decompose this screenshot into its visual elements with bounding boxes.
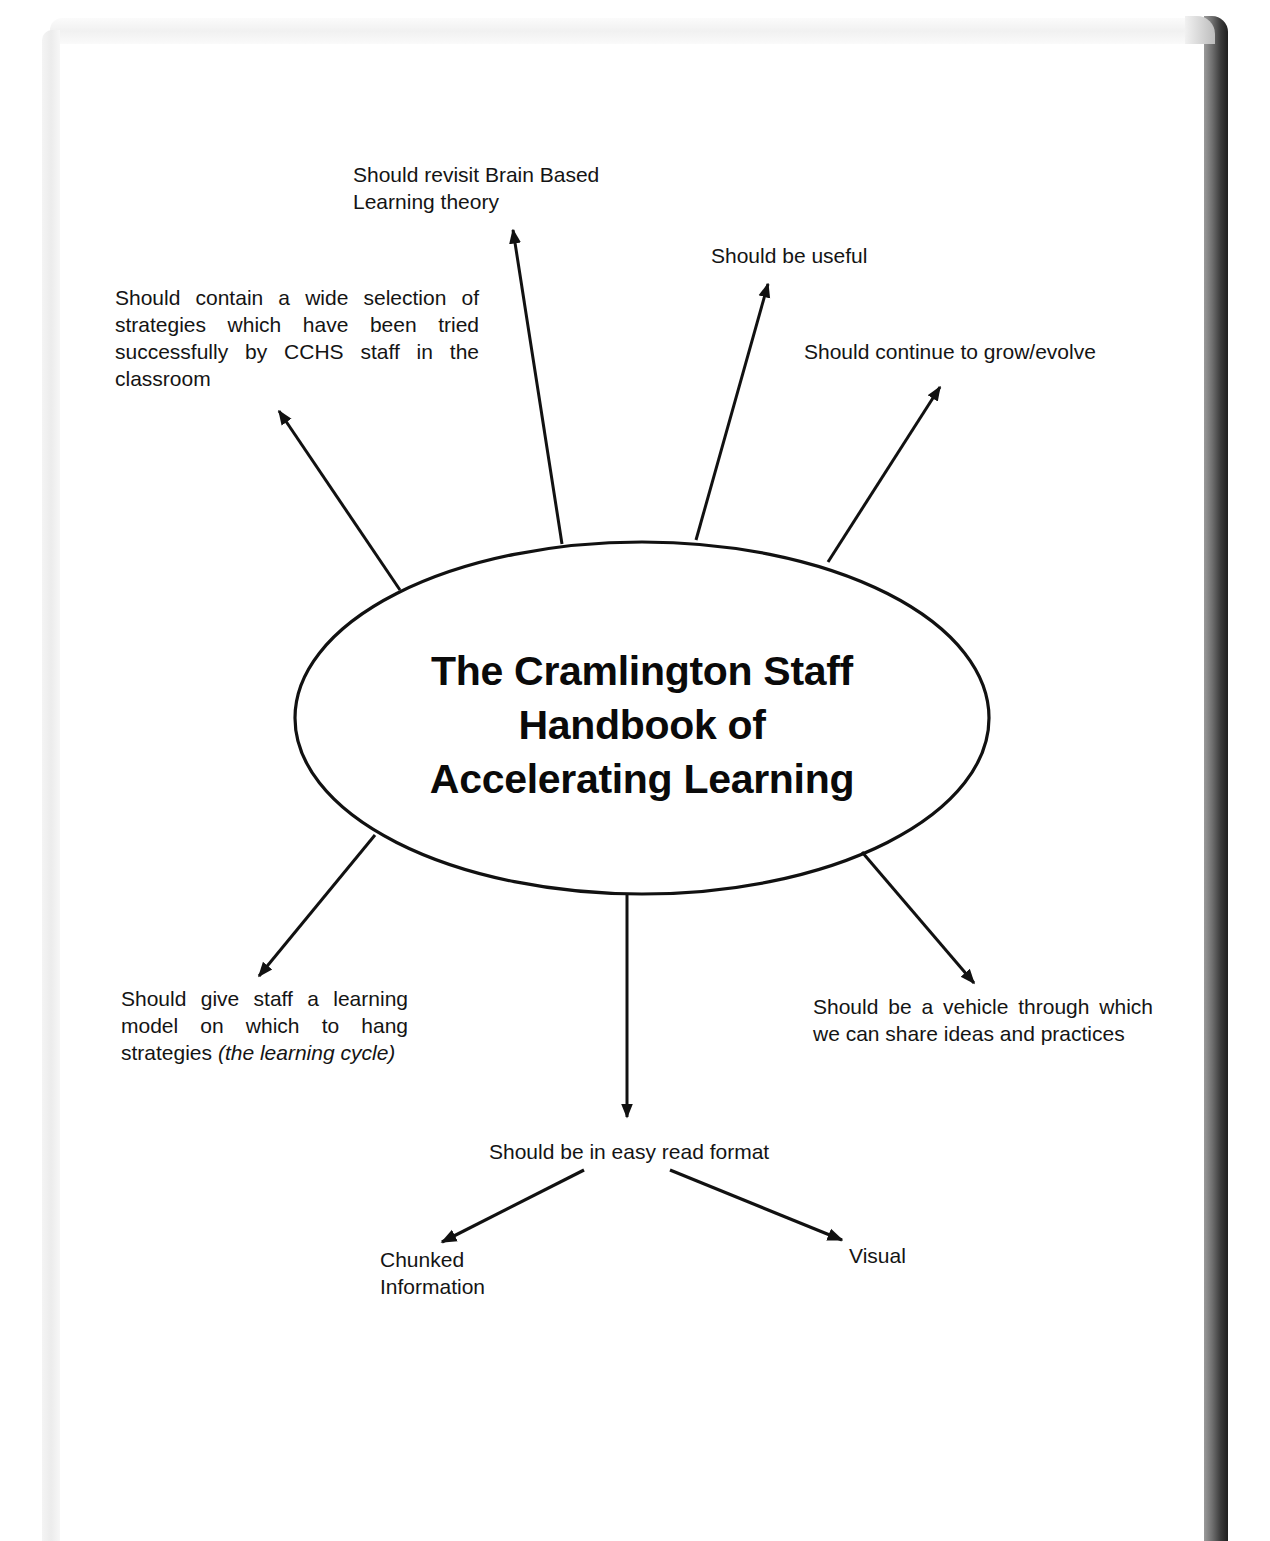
branch-easy-read-format: Should be in easy read format [489,1138,849,1165]
arrow-to-grow-evolve-icon [828,387,940,562]
arrow-to-brain-based-icon [513,230,562,544]
branch-strategies: Should contain a wide selection of strat… [115,284,479,392]
central-topic-title: The Cramlington Staff Handbook of Accele… [342,644,942,806]
branch-vehicle: Should be a vehicle through which we can… [813,993,1153,1047]
branch-learning-model: Should give staff a learning model on wh… [121,985,408,1066]
arrow-to-visual-icon [670,1170,842,1240]
sub-branch-visual: Visual [849,1242,969,1269]
title-line-2: Handbook of [342,698,942,752]
arrow-to-useful-icon [696,284,768,540]
arrow-to-learning-model-icon [259,835,375,976]
branch-useful: Should be useful [711,242,971,269]
arrow-to-chunked-icon [442,1170,584,1242]
arrow-to-vehicle-icon [862,852,974,983]
sub-branch-chunked-information: ChunkedInformation [380,1246,580,1300]
title-line-1: The Cramlington Staff [342,644,942,698]
title-line-3: Accelerating Learning [342,752,942,806]
branch-grow-evolve: Should continue to grow/evolve [804,338,1164,365]
arrow-to-strategies-icon [279,411,400,590]
chunked-text: ChunkedInformation [380,1248,485,1298]
learning-cycle-note: (the learning cycle) [218,1041,395,1064]
branch-brain-based-learning: Should revisit Brain Based Learning theo… [353,161,663,215]
